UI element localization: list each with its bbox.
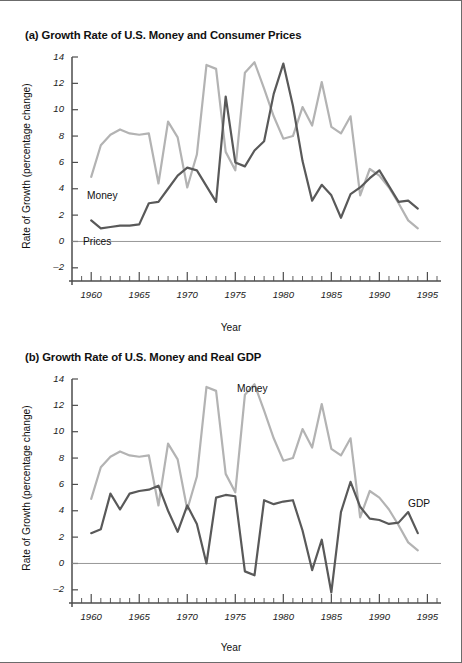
y-tick-label: 12: [40, 399, 64, 410]
y-tick-label: 10: [40, 103, 64, 114]
y-tick-label: 12: [40, 77, 64, 88]
y-tick-label: –2: [40, 261, 64, 272]
panel-b-title: (b) Growth Rate of U.S. Money and Real G…: [25, 351, 261, 363]
series-label-gdp: GDP: [408, 498, 430, 509]
series-label-money: Money: [237, 383, 268, 394]
x-tick-label: 1985: [311, 289, 351, 300]
y-tick-label: 6: [40, 478, 64, 489]
x-tick-label: 1980: [263, 289, 303, 300]
y-tick-label: 2: [40, 209, 64, 220]
y-tick-label: 0: [40, 235, 64, 246]
panel-b-y-axis-title: Rate of Growth (percentage change): [21, 373, 37, 603]
y-tick-label: 8: [40, 130, 64, 141]
panel-a-y-axis-title: Rate of Growth (percentage change): [21, 51, 37, 281]
x-tick-label: 1995: [407, 289, 447, 300]
y-tick-label: 4: [40, 504, 64, 515]
panel-b-x-axis-title: Year: [0, 642, 462, 653]
panel-b-svg: [25, 371, 445, 633]
y-tick-label: 2: [40, 531, 64, 542]
x-tick-label: 1960: [71, 611, 111, 622]
y-tick-label: 4: [40, 182, 64, 193]
y-tick-label: 6: [40, 156, 64, 167]
y-tick-label: 14: [40, 373, 64, 384]
x-tick-label: 1965: [119, 611, 159, 622]
series-label-money: Money: [87, 190, 118, 201]
series-label-prices: Prices: [83, 236, 111, 247]
chart-panel-b: (b) Growth Rate of U.S. Money and Real G…: [0, 341, 462, 661]
x-tick-label: 1980: [263, 611, 303, 622]
x-tick-label: 1975: [215, 611, 255, 622]
x-tick-label: 1970: [167, 289, 207, 300]
panel-a-svg: [25, 49, 445, 311]
y-tick-label: 0: [40, 557, 64, 568]
x-tick-label: 1965: [119, 289, 159, 300]
y-tick-label: 8: [40, 452, 64, 463]
x-tick-label: 1970: [167, 611, 207, 622]
x-tick-label: 1995: [407, 611, 447, 622]
x-tick-label: 1990: [359, 611, 399, 622]
x-tick-label: 1975: [215, 289, 255, 300]
panel-a-x-axis-title: Year: [0, 322, 462, 333]
x-tick-label: 1985: [311, 611, 351, 622]
panel-a-plot-area: Rate of Growth (percentage change) –2024…: [25, 49, 445, 309]
figure-page: (a) Growth Rate of U.S. Money and Consum…: [0, 0, 462, 663]
x-tick-label: 1960: [71, 289, 111, 300]
chart-panel-a: (a) Growth Rate of U.S. Money and Consum…: [0, 19, 462, 341]
panel-a-title: (a) Growth Rate of U.S. Money and Consum…: [25, 29, 301, 41]
panel-b-plot-area: Rate of Growth (percentage change) –2024…: [25, 371, 445, 631]
x-tick-label: 1990: [359, 289, 399, 300]
y-tick-label: 10: [40, 425, 64, 436]
y-tick-label: –2: [40, 583, 64, 594]
y-tick-label: 14: [40, 51, 64, 62]
